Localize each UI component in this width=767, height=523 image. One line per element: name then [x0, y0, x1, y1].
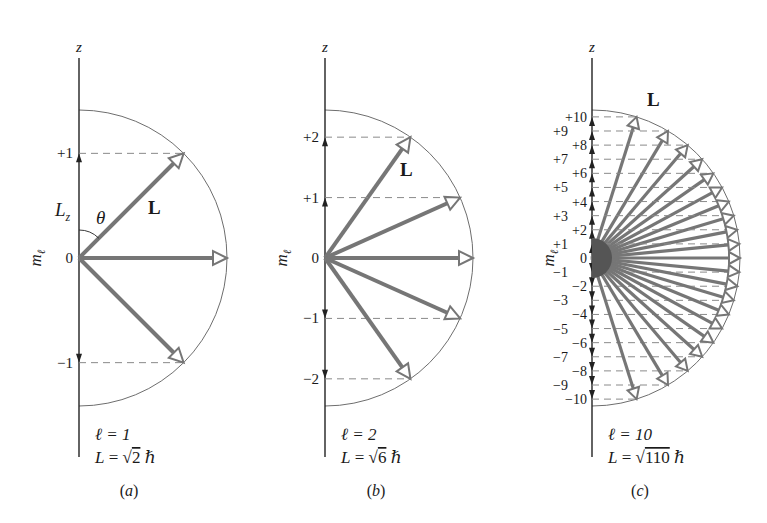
ml-tick-label: −6: [572, 336, 587, 351]
arrowhead-icon: [701, 331, 713, 342]
theta-arc: [79, 230, 99, 238]
lz-arrow-icon: [322, 137, 328, 146]
panel-caption: (b): [367, 482, 386, 500]
lz-arrow-icon: [589, 202, 595, 211]
ml-tick-label: +1: [303, 190, 319, 206]
angular-momentum-figure: zmℓ+10−1θLzLℓ = 1L = √2 ℏ(a) zmℓ+2+10−1−…: [0, 0, 767, 523]
lz-arrow-icon: [76, 354, 82, 363]
arrowhead-icon: [725, 226, 737, 238]
arrowhead-icon: [628, 117, 639, 129]
lz-arrow-icon: [589, 216, 595, 225]
arrowhead-icon: [716, 200, 728, 211]
L-magnitude-label: L = √110 ℏ: [607, 448, 685, 467]
ml-tick-label: −8: [572, 364, 587, 379]
arrowhead-icon: [728, 265, 740, 277]
ml-tick-label: +2: [572, 223, 587, 238]
lz-arrow-icon: [76, 153, 82, 162]
arrowhead-icon: [710, 187, 723, 198]
panel-a: zmℓ+10−1θLzLℓ = 1L = √2 ℏ(a): [26, 39, 227, 500]
lz-label: Lz: [54, 199, 71, 224]
ml-tick-label: −1: [553, 265, 568, 280]
arrowhead-icon: [444, 306, 460, 319]
lz-arrow-icon: [589, 117, 595, 126]
arrowhead-icon: [444, 197, 460, 210]
lz-arrow-icon: [589, 305, 595, 314]
vector-L-label: L: [148, 197, 161, 218]
lz-arrow-icon: [589, 230, 595, 239]
lz-arrow-icon: [589, 376, 595, 385]
panel-c: zmℓ+10+9+8+7+6+5+4+3+2+10−1−2−3−4−5−6−7−…: [539, 39, 740, 500]
ml-tick-label: +8: [572, 138, 587, 153]
lz-arrow-icon: [589, 277, 595, 286]
l-value-label: ℓ = 10: [608, 425, 653, 444]
vector-L-label: L: [400, 159, 413, 180]
ml-tick-label: +10: [565, 110, 587, 125]
ml-tick-label: −1: [303, 310, 319, 326]
ml-tick-label: −2: [303, 371, 319, 387]
ml-tick-label: +9: [553, 124, 568, 139]
ml-tick-label: +1: [57, 145, 73, 161]
L-vector: [79, 258, 174, 353]
arrowhead-icon: [710, 318, 723, 329]
lz-arrow-icon: [589, 131, 595, 140]
arrowhead-icon: [722, 213, 734, 224]
ml-tick-label: −9: [553, 378, 568, 393]
ml-tick-label: 0: [66, 250, 74, 266]
L-magnitude-label: L = √2 ℏ: [94, 448, 156, 467]
arrowhead-icon: [722, 291, 734, 302]
vector-L-label: L: [647, 89, 660, 110]
ml-tick-label: 0: [312, 250, 320, 266]
ml-tick-label: +3: [553, 209, 568, 224]
ml-tick-label: +4: [572, 195, 587, 210]
ml-tick-label: −4: [572, 307, 587, 322]
arrowhead-icon: [628, 387, 639, 399]
lz-arrow-icon: [322, 309, 328, 318]
ml-tick-label: 0: [580, 251, 587, 266]
ml-tick-label: −1: [57, 355, 73, 371]
arrowhead-icon: [657, 131, 668, 144]
arrowhead-icon: [701, 173, 713, 184]
ml-tick-label: −3: [553, 293, 568, 308]
arrowhead-icon: [728, 239, 740, 251]
lz-arrow-icon: [589, 334, 595, 343]
arrowhead-icon: [213, 251, 227, 265]
arrowhead-icon: [725, 278, 737, 290]
lz-arrow-icon: [589, 320, 595, 329]
lz-arrow-icon: [589, 145, 595, 154]
ml-tick-label: −10: [565, 392, 587, 407]
ml-tick-label: −5: [553, 322, 568, 337]
z-axis-label: z: [321, 39, 328, 55]
lz-arrow-icon: [322, 370, 328, 379]
L-magnitude-label: L = √6 ℏ: [340, 448, 402, 467]
ml-tick-label: −7: [553, 350, 568, 365]
arrowhead-icon: [459, 251, 473, 265]
ml-tick-label: +5: [553, 180, 568, 195]
ml-tick-label: +6: [572, 166, 587, 181]
lz-arrow-icon: [589, 291, 595, 300]
l-value-label: ℓ = 1: [95, 425, 131, 444]
ml-axis-label: mℓ: [272, 249, 293, 266]
l-value-label: ℓ = 2: [341, 425, 377, 444]
z-axis-label: z: [588, 39, 595, 55]
ml-axis-label: mℓ: [26, 249, 47, 266]
lz-arrow-icon: [589, 362, 595, 371]
lz-arrow-icon: [322, 198, 328, 207]
ml-tick-label: +2: [303, 129, 319, 145]
panel-caption: (c): [631, 482, 649, 500]
panel-b: zmℓ+2+10−1−2Lℓ = 2L = √6 ℏ(b): [272, 39, 473, 500]
ml-tick-label: −2: [572, 279, 587, 294]
ml-tick-label: +7: [553, 152, 568, 167]
panel-caption: (a): [120, 482, 139, 500]
arrowhead-icon: [716, 305, 728, 316]
lz-arrow-icon: [589, 187, 595, 196]
arrowhead-icon: [729, 252, 740, 264]
lz-arrow-icon: [589, 159, 595, 168]
ml-tick-label: +1: [553, 237, 568, 252]
lz-arrow-icon: [589, 348, 595, 357]
arrowhead-icon: [657, 372, 668, 385]
theta-label: θ: [96, 207, 105, 228]
z-axis-label: z: [75, 39, 82, 55]
lz-arrow-icon: [589, 173, 595, 182]
lz-arrow-icon: [589, 390, 595, 399]
